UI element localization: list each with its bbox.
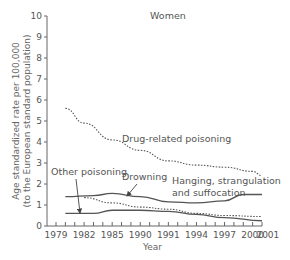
x-tick-label: 2001: [256, 230, 279, 240]
y-axis-title-line-2: (to the European standard population): [22, 35, 32, 208]
y-tick-label: 1: [36, 200, 42, 210]
x-tick-label: 1997: [213, 230, 236, 240]
x-tick-label: 1985: [101, 230, 124, 240]
label-drug-related-poisoning: Drug-related poisoning: [122, 133, 231, 144]
x-axis-title: Year: [142, 242, 162, 252]
y-tick-label: 6: [36, 95, 42, 105]
x-tick-label: 1990: [129, 230, 152, 240]
chart-title: Women: [150, 10, 186, 21]
label-hanging-line-2: and suffocation: [172, 187, 245, 198]
x-tick-label: 1982: [73, 230, 96, 240]
y-tick-label: 5: [36, 116, 42, 126]
y-tick-label: 7: [36, 74, 42, 84]
y-tick-label: 8: [36, 53, 42, 63]
label-drowning: Drowning: [122, 171, 167, 182]
x-tick-label: 1991: [157, 230, 180, 240]
y-axis-title-line-1: Age standardized rate per 100,000: [11, 42, 21, 200]
y-tick-label: 4: [36, 137, 42, 147]
y-tick-label: 2: [36, 179, 42, 189]
y-tick-label: 3: [36, 158, 42, 168]
y-axis-title: Age standardized rate per 100,000 (to th…: [11, 35, 32, 208]
y-axis-ticks: 012345678910: [31, 11, 47, 231]
x-axis-ticks: 197919821985199019911994199720002001: [45, 222, 280, 240]
y-tick-label: 10: [31, 11, 43, 21]
series-lines: [65, 108, 262, 220]
arrow-drowning: [127, 184, 137, 196]
series-other-poisoning: [84, 198, 262, 217]
x-tick-label: 1979: [45, 230, 68, 240]
y-tick-label: 0: [36, 221, 42, 231]
line-chart: Women Age standardized rate per 100,000 …: [0, 0, 290, 260]
x-tick-label: 1994: [185, 230, 208, 240]
label-hanging-line-1: Hanging, strangulation: [172, 175, 281, 186]
y-tick-label: 9: [36, 32, 42, 42]
label-other-poisoning: Other poisoning: [51, 166, 127, 177]
